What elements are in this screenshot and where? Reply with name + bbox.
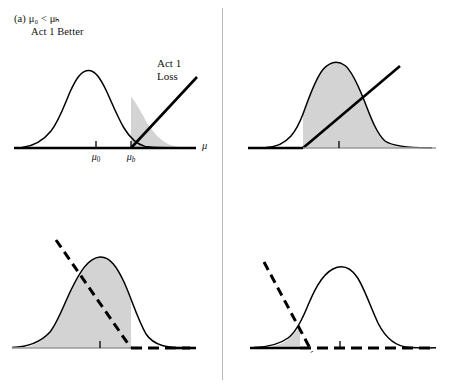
- density-curve-a: [22, 70, 196, 147]
- panel-c-plot: [0, 196, 222, 392]
- panel-a-condition: (a) μ₀ < μₕ: [14, 13, 84, 26]
- panel-a-loss-line1: Act 1: [157, 57, 181, 70]
- panel-divider: [222, 8, 223, 380]
- tick-label-mu0-a: μ0: [92, 151, 101, 164]
- tick-label-mub-a: μb: [127, 151, 136, 164]
- panel-a-loss-label: Act 1 Loss: [157, 57, 181, 82]
- panel-b: (b) μ₀ > μₕ Act 2 Better Act 1 Loss μb μ…: [228, 0, 456, 196]
- shaded-region-b: [303, 63, 432, 148]
- panel-c: Act 2 Loss μ0 μb μ: [0, 196, 222, 392]
- panel-a: (a) μ₀ < μₕ Act 1 Better Act 1 Loss μ0 μ…: [0, 0, 222, 196]
- panel-a-better-act: Act 1 Better: [31, 26, 84, 39]
- panel-a-caption: (a) μ₀ < μₕ Act 1 Better: [14, 13, 84, 38]
- density-curve-d: [254, 267, 436, 348]
- figure-container: (a) μ₀ < μₕ Act 1 Better Act 1 Loss μ0 μ…: [0, 0, 456, 392]
- panel-b-plot: [228, 0, 456, 196]
- panel-d: Act 2 Loss μb μ0 μ: [228, 196, 456, 392]
- shaded-region-a: [131, 97, 196, 149]
- panel-d-plot: [228, 196, 456, 392]
- panel-a-loss-line2: Loss: [157, 70, 181, 83]
- axis-label-a: μ: [202, 140, 207, 151]
- shaded-region-d: [262, 326, 300, 348]
